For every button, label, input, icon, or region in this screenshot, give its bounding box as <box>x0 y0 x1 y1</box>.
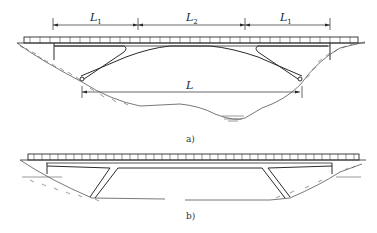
figure-a-rigid-frame-bridge <box>17 18 365 121</box>
deck-b <box>20 154 366 163</box>
caption-a: a) <box>186 134 195 144</box>
span-label-l: L <box>185 79 193 92</box>
dim-label-l1-left: L1 <box>89 11 102 26</box>
figure-b-strut-frame-bridge <box>20 154 366 201</box>
frame-b <box>47 163 332 198</box>
deck-a <box>17 37 365 46</box>
dim-label-l1-right: L1 <box>279 11 292 26</box>
bridge-diagram: L1 L2 L1 L a) b) <box>0 0 377 233</box>
frame-a <box>54 43 330 81</box>
caption-b: b) <box>186 211 195 221</box>
dim-label-l2: L2 <box>185 11 198 26</box>
ground-b <box>20 160 362 201</box>
